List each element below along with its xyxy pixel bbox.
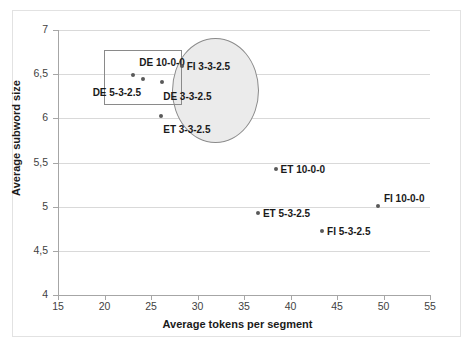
x-axis-title: Average tokens per segment xyxy=(0,318,475,330)
data-point-label: ET 3-3-2.5 xyxy=(163,124,210,135)
y-axis-tick-label: 4,5 xyxy=(33,244,48,256)
y-axis-tick-label: 5 xyxy=(42,200,48,212)
y-axis-tick xyxy=(53,163,58,164)
gridline-horizontal xyxy=(58,251,430,252)
y-tick-label-wrap: 7 xyxy=(0,23,48,37)
y-axis-tick xyxy=(53,207,58,208)
data-point-label: FI 3-3-2.5 xyxy=(187,61,230,72)
x-axis-tick-label: 55 xyxy=(410,300,450,314)
y-axis-tick-label: 4 xyxy=(42,288,48,300)
data-point xyxy=(376,204,380,208)
y-tick-label-wrap: 6 xyxy=(0,111,48,125)
x-axis-tick-label: 20 xyxy=(85,300,125,314)
y-tick-label-wrap: 4,5 xyxy=(0,244,48,258)
gridline-horizontal xyxy=(58,163,430,164)
y-axis-line xyxy=(58,30,59,296)
y-axis-tick-label: 6,5 xyxy=(33,67,48,79)
data-point xyxy=(159,114,163,118)
x-axis-tick-label: 40 xyxy=(271,300,311,314)
y-axis-title: Average subword size xyxy=(10,38,22,238)
y-axis-tick xyxy=(53,251,58,252)
x-axis-tick-label: 50 xyxy=(364,300,404,314)
data-point-label: DE 5-3-2.5 xyxy=(93,87,141,98)
data-point-label: FI 10-0-0 xyxy=(384,193,425,204)
y-axis-tick-label: 6 xyxy=(42,111,48,123)
plot-area: DE 10-0-0DE 5-3-2.5DE 3-3-2.5FI 3-3-2.5E… xyxy=(58,30,430,295)
x-axis-tick-label: 30 xyxy=(178,300,218,314)
scatter-chart: DE 10-0-0DE 5-3-2.5DE 3-3-2.5FI 3-3-2.5E… xyxy=(0,0,475,356)
y-axis-tick-label: 7 xyxy=(42,23,48,35)
x-axis-tick-label: 35 xyxy=(224,300,264,314)
y-tick-label-wrap: 5 xyxy=(0,200,48,214)
x-axis-tick-label: 15 xyxy=(38,300,78,314)
data-point xyxy=(274,167,278,171)
data-point xyxy=(320,229,324,233)
data-point xyxy=(141,77,145,81)
data-point-label: DE 10-0-0 xyxy=(139,57,185,68)
y-axis-tick xyxy=(53,30,58,31)
gridline-horizontal xyxy=(58,30,430,31)
x-axis-tick-label: 25 xyxy=(131,300,171,314)
y-tick-label-wrap: 6,5 xyxy=(0,67,48,81)
y-axis-tick-label: 5,5 xyxy=(33,156,48,168)
data-point xyxy=(180,64,184,68)
y-tick-label-wrap: 5,5 xyxy=(0,156,48,170)
x-axis-tick-label: 45 xyxy=(317,300,357,314)
y-axis-tick xyxy=(53,118,58,119)
data-point-label: DE 3-3-2.5 xyxy=(163,91,211,102)
y-axis-tick xyxy=(53,74,58,75)
data-point-label: ET 5-3-2.5 xyxy=(263,208,310,219)
data-point-label: ET 10-0-0 xyxy=(281,164,325,175)
data-point xyxy=(256,211,260,215)
gridline-horizontal xyxy=(58,207,430,208)
data-point-label: FI 5-3-2.5 xyxy=(327,226,370,237)
